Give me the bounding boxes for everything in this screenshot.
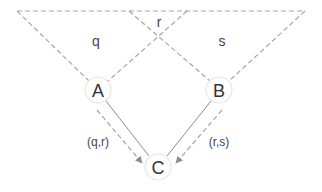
node-c-label: C [152,158,165,178]
edge-label-qr: (q,r) [87,135,109,149]
node-a[interactable]: A [85,77,111,103]
node-a-label: A [92,81,104,101]
node-b-label: B [213,81,225,101]
region-label-q: q [92,33,100,49]
region-label-s: s [219,33,226,49]
cone-a-left-edge [17,11,89,81]
diagram-canvas: q r s (q,r) (r,s) A B C [0,0,322,192]
region-label-r: r [157,14,162,30]
node-b[interactable]: B [206,77,232,103]
cone-b-left-edge [129,11,210,81]
cone-b-right-edge [229,11,305,81]
edge-label-rs: (r,s) [209,135,230,149]
node-c[interactable]: C [145,154,171,180]
cone-a-right-edge [108,11,187,81]
